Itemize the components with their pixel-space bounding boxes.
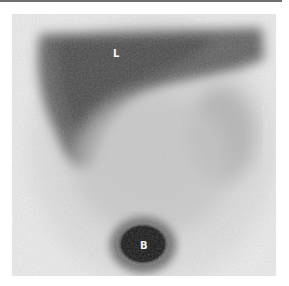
scan-image-panel: L B <box>12 14 276 276</box>
label-b: B <box>140 241 148 251</box>
top-rule <box>0 0 282 2</box>
label-l: L <box>113 49 119 59</box>
scan-image <box>12 14 276 276</box>
